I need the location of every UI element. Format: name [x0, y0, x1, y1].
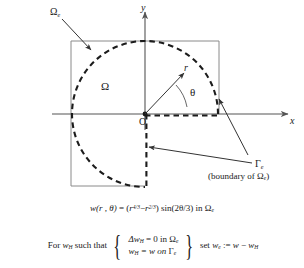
boundary-equation: = w on [141, 246, 167, 256]
left-brace: { [113, 233, 121, 258]
laplacian-symbol: Δw [128, 234, 139, 244]
gamma-e-subscript: e [261, 163, 264, 170]
radius-vector [145, 73, 184, 114]
tail-set: set [200, 240, 210, 250]
geometry-diagram [0, 0, 304, 268]
harmonic-extension-statement: For wH such that { ΔwH = 0 in Ωe wH = w … [8, 233, 298, 258]
laplace-domain: Ω [169, 234, 176, 244]
condition-boundary: wH = w on Γe [128, 246, 178, 256]
formula-in: in [196, 203, 203, 213]
condition-stack: ΔwH = 0 in Ωe wH = w on Γe [127, 234, 179, 257]
condition-laplace: ΔwH = 0 in Ωe [128, 234, 178, 244]
statement-prefix-tail: such that [75, 240, 107, 250]
statement-prefix-for: For [48, 240, 61, 250]
gamma-e-leader-arrow-upper [219, 99, 248, 155]
boundary-w-subscript: H [134, 251, 138, 257]
figure-page: y x O r θ Ω Ωe Γe (boundary of Ωe) w(r ,… [0, 0, 304, 268]
statement-tail: set we := w − wH [200, 240, 258, 250]
theta-label: θ [190, 86, 195, 98]
theta-angle-arc [176, 85, 187, 107]
laplace-equation: = 0 in [146, 234, 167, 244]
laplace-domain-subscript: e [176, 238, 178, 244]
right-brace: } [186, 233, 194, 258]
tail-assign: := [223, 240, 231, 250]
x-axis-label: x [290, 115, 294, 126]
tail-expr-b-subscript: H [254, 244, 258, 250]
formula-lhs: w(r , θ) [90, 203, 117, 213]
formula-close-paren: ) [156, 203, 159, 213]
omega-e-label: Ωe [50, 6, 60, 18]
statement-prefix: For wH such that [48, 240, 107, 250]
omega-label: Ω [101, 80, 109, 92]
laplacian-subscript: H [140, 238, 144, 244]
omega-e-subscript: e [57, 11, 60, 18]
omega-e-leader-arrow [62, 19, 91, 50]
y-axis-label: y [141, 2, 145, 13]
formula-term2-exponent: 2/3 [149, 204, 156, 210]
gamma-e-caption: (boundary of Ωe) [208, 171, 269, 181]
tail-expr-a: w [233, 240, 239, 250]
gamma-e-leader-arrow-lower [149, 147, 252, 163]
caption-close: ) [266, 171, 269, 181]
gamma-e-label: Γe [255, 158, 264, 170]
caption-open: (boundary of [208, 171, 257, 181]
origin-label: O [139, 116, 146, 127]
formula-term1-exponent: 4/3 [133, 204, 140, 210]
radius-label: r [184, 62, 188, 73]
statement-prefix-w-subscript: H [68, 244, 72, 250]
caption-omega: Ω [257, 171, 264, 181]
tail-minus: − [241, 240, 246, 250]
boundary-gamma-subscript: e [174, 251, 176, 257]
formula-equals: = [119, 203, 124, 213]
tail-w-subscript: e [218, 244, 220, 250]
formula-domain-subscript: e [211, 207, 213, 213]
solution-formula: w(r , θ) = (r4/3−r2/3) sin(2θ/3) in Ωe [0, 203, 304, 213]
formula-trig: sin(2θ/3) [161, 203, 193, 213]
